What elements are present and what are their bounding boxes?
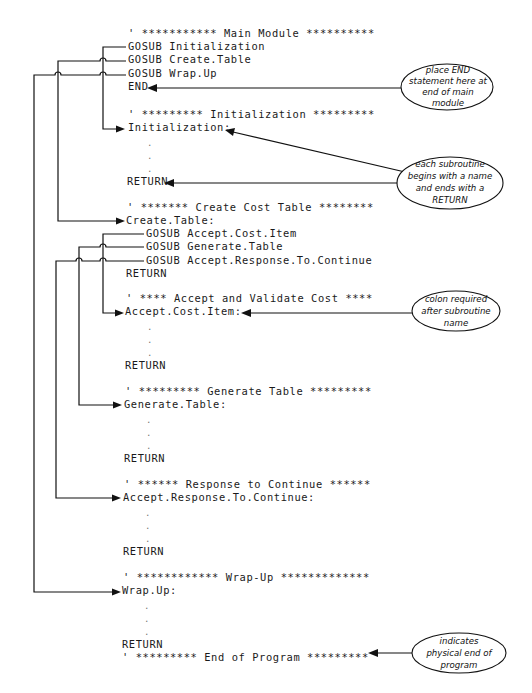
gosub-accept-response-line: GOSUB Accept.Response.To.Continue — [146, 254, 372, 266]
ellipsis-dot: . — [147, 322, 152, 332]
arrowhead-icon — [116, 218, 125, 225]
accept-validate-cost-comment: ' **** Accept and Validate Cost **** — [126, 292, 373, 304]
accept-cost-item-label: Accept.Cost.Item: — [125, 305, 242, 317]
response-to-continue-comment: ' ****** Response to Continue ****** — [124, 478, 371, 490]
callout-text: after subroutine — [421, 306, 490, 316]
arrowhead-icon — [368, 649, 378, 657]
callout-text: physical end of — [425, 648, 493, 658]
generate-table-comment: ' ********* Generate Table ********* — [125, 385, 372, 397]
program-structure-diagram: ' *********** Main Module ********** GOS… — [0, 0, 532, 693]
wrap-up-comment: ' ************ Wrap-Up ************* — [123, 571, 370, 583]
initialization-comment: ' ********* Initialization ********* — [128, 108, 375, 120]
callout-text: place END — [425, 65, 471, 75]
ellipsis-dot: . — [144, 627, 149, 637]
ellipsis-dot: . — [147, 151, 152, 161]
arrowhead-icon — [113, 402, 122, 409]
accept-response-return: RETURN — [123, 545, 164, 557]
callout-text: name — [444, 318, 468, 328]
generate-table-return: RETURN — [124, 452, 165, 464]
accept-response-label: Accept.Response.To.Continue: — [123, 491, 315, 503]
code-listing: ' *********** Main Module ********** GOS… — [122, 27, 375, 663]
callout-text: each subroutine — [415, 159, 485, 169]
arrowhead-icon — [116, 126, 125, 133]
callout-text: program — [440, 660, 478, 670]
initialization-return: RETURN — [127, 175, 168, 187]
create-table-label: Create.Table: — [126, 214, 215, 226]
callout-text: end of main — [422, 87, 473, 97]
accept-cost-item-return: RETURN — [125, 359, 166, 371]
callout-text: RETURN — [432, 195, 468, 205]
arrowhead-icon — [112, 495, 121, 502]
callout-text: colon required — [425, 294, 488, 304]
callout-text: indicates — [440, 636, 479, 646]
gosub-create-table-line: GOSUB Create.Table — [128, 53, 251, 65]
end-statement-line: END — [128, 80, 149, 92]
main-module-connectors — [34, 47, 126, 596]
ellipsis-dot: . — [147, 348, 152, 358]
main-module-comment: ' *********** Main Module ********** — [128, 27, 375, 39]
create-table-return: RETURN — [126, 267, 167, 279]
ellipsis-dot: . — [145, 521, 150, 531]
callout-subroutine: each subroutine begins with a name and e… — [164, 128, 503, 209]
ellipsis-dot: . — [147, 335, 152, 345]
ellipsis-dot: . — [146, 415, 151, 425]
ellipsis-dot: . — [147, 164, 152, 174]
gosub-generate-table-line: GOSUB Generate.Table — [146, 240, 283, 252]
ellipsis-dot: . — [145, 534, 150, 544]
gosub-accept-cost-item-line: GOSUB Accept.Cost.Item — [146, 227, 297, 239]
connector-initialization — [103, 47, 126, 129]
connector-create-table — [58, 58, 126, 221]
arrowhead-icon — [115, 310, 124, 317]
ellipsis-dot: . — [146, 428, 151, 438]
arrowhead-icon — [241, 309, 251, 317]
ellipsis-dot: . — [145, 508, 150, 518]
callout-pointer — [233, 132, 405, 172]
end-of-program-comment: ' ********* End of Program ********* — [122, 651, 369, 663]
callout-text: statement here at — [409, 76, 488, 86]
callout-text: and ends with a — [416, 183, 485, 193]
callout-text: module — [432, 98, 464, 108]
generate-table-label: Generate.Table: — [124, 398, 227, 410]
gosub-wrap-up-line: GOSUB Wrap.Up — [128, 67, 217, 79]
ellipsis-dot: . — [146, 441, 151, 451]
initialization-label: Initialization: — [128, 121, 231, 133]
ellipsis-dot: . — [144, 601, 149, 611]
wrap-up-return: RETURN — [122, 638, 163, 650]
ellipsis-dot: . — [147, 138, 152, 148]
wrap-up-label: Wrap.Up: — [122, 584, 177, 596]
connector-wrap-up — [34, 72, 126, 592]
arrowhead-icon — [112, 589, 121, 596]
callout-text: begins with a name — [408, 171, 493, 181]
create-cost-table-comment: ' ******* Create Cost Table ******** — [127, 201, 374, 213]
gosub-initialization-line: GOSUB Initialization — [128, 40, 265, 52]
ellipsis-dot: . — [144, 614, 149, 624]
callout-physical-end: indicates physical end of program — [368, 633, 506, 673]
